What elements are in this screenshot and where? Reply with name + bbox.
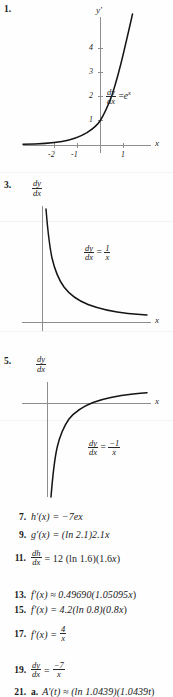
- graph-3-equation-relation: =: [96, 247, 101, 257]
- graph-5-equation-lhs-denominator: dx: [88, 448, 98, 457]
- answer-11-lhs-denominator: dx: [31, 558, 42, 567]
- graph-3-equation: dy dx = 1 x: [84, 244, 110, 262]
- graph-3-equation-lhs-denominator: dx: [84, 253, 94, 262]
- answer-17-rhs-fraction: 4 x: [60, 625, 66, 643]
- answer-15-tail: ): [123, 604, 126, 615]
- answer-15-number: 15.: [4, 605, 26, 615]
- answer-9-text: g′(x) = (ln 2.1)2.1: [31, 529, 105, 540]
- answer-9-exponent: x: [105, 529, 110, 540]
- graph-5-equation-relation: =: [100, 442, 105, 452]
- answer-11-tail: ): [117, 553, 120, 564]
- answer-item-15: 15. f′(x) = 4.2(ln 0.8)(0.8x): [4, 604, 127, 615]
- answer-19-lhs-denominator: dx: [31, 670, 41, 679]
- answer-19-rhs-denominator: x: [53, 670, 65, 679]
- answer-21-part-label: a.: [31, 687, 38, 697]
- answer-19-number: 19.: [4, 665, 26, 675]
- answer-17-number: 17.: [4, 629, 26, 639]
- answer-19-rhs-fraction: −7 x: [53, 661, 65, 679]
- answer-7-exponent: x: [78, 511, 83, 522]
- graph-3: 3. dy dx x dy dx = 1 x: [0, 176, 173, 331]
- graph-1-curve: [0, 0, 173, 172]
- graph-5-equation-rhs-denominator: x: [108, 448, 120, 457]
- graph-1-equation-rhs-exponent: x: [128, 89, 131, 96]
- answer-item-9: 9. g′(x) = (ln 2.1)2.1x: [4, 529, 109, 540]
- answer-item-21: 21. a. A′(t) ≈ (ln 1.0439)(1.0439t): [4, 686, 155, 697]
- answer-item-11: 11. dh dx = 12 (ln 1.6)(1.6x): [4, 549, 120, 567]
- graph-1-equation: dy dx =ex: [106, 88, 131, 106]
- graph-1-equation-lhs: dy dx: [106, 88, 116, 106]
- answer-11-number: 11.: [4, 553, 26, 563]
- graph-5-equation-rhs: −1 x: [108, 439, 120, 457]
- graph-5-equation: dy dx = −1 x: [88, 439, 120, 457]
- graph-1-equation-denominator: dx: [106, 97, 116, 106]
- answer-17-rhs-denominator: x: [60, 634, 66, 643]
- answer-11-text: = 12 (ln 1.6)(1.6: [45, 553, 113, 564]
- answer-13-tail: ): [133, 589, 136, 600]
- answer-13-text: f′(x) ≈ 0.49690(1.05095: [31, 589, 128, 600]
- answer-19-lhs-fraction: dy dx: [31, 661, 41, 679]
- answer-9-number: 9.: [4, 530, 26, 540]
- scan-seam: [0, 172, 173, 173]
- answer-17-text: f′(x) =: [31, 629, 57, 640]
- answer-7-text: h′(x) = −7e: [31, 511, 78, 522]
- answer-21-number: 21.: [4, 687, 26, 697]
- answer-item-7: 7. h′(x) = −7ex: [4, 511, 83, 522]
- answer-item-17: 17. f′(x) = 4 x: [4, 625, 66, 643]
- answer-11-lhs-fraction: dh dx: [31, 549, 42, 567]
- answer-item-19: 19. dy dx = −7 x: [4, 661, 65, 679]
- graph-1: 1. y′ x 4 3 2 1 -2 -1 1 dy d: [0, 0, 173, 172]
- graph-5-curve: [0, 352, 173, 497]
- scan-seam: [0, 331, 173, 332]
- answer-7-number: 7.: [4, 512, 26, 522]
- answer-15-text: f′(x) = 4.2(ln 0.8)(0.8: [31, 604, 119, 615]
- answer-21-tail: ): [151, 686, 154, 697]
- answer-item-13: 13. f′(x) ≈ 0.49690(1.05095x): [4, 589, 136, 600]
- answer-13-number: 13.: [4, 590, 26, 600]
- graph-5: 5. dy dx x dy dx = −1 x: [0, 352, 173, 497]
- graph-5-equation-lhs: dy dx: [88, 439, 98, 457]
- answer-21-text: A′(t) ≈ (ln 1.0439)(1.0439: [42, 686, 148, 697]
- graph-3-equation-rhs: 1 x: [104, 244, 110, 262]
- graph-3-equation-lhs: dy dx: [84, 244, 94, 262]
- graph-3-equation-rhs-denominator: x: [104, 253, 110, 262]
- answer-19-relation: =: [44, 665, 50, 676]
